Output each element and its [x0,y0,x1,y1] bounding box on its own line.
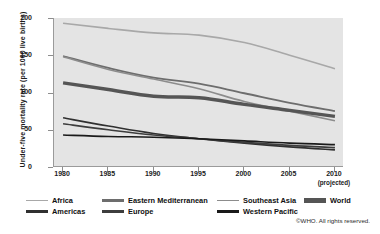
legend-label: Southeast Asia [243,196,296,205]
x-axis-tick-year: 1985 [100,170,116,177]
legend-item[interactable]: Europe [102,207,153,216]
plot-area [53,18,343,167]
legend-item[interactable]: Western Pacific [217,207,298,216]
y-axis-tick-label: 100 [4,88,32,95]
legend-item[interactable]: Americas [26,207,85,216]
legend-label: Western Pacific [243,207,298,216]
legend-item[interactable]: Eastern Mediterranean [102,196,208,205]
x-axis-tick-year: 1980 [54,170,70,177]
legend-swatch [102,199,124,201]
legend-swatch [26,200,48,202]
copyright-notice: ©WHO. All rights reserved. [0,217,370,224]
series-line [63,135,335,145]
legend-swatch [26,210,48,212]
legend-swatch [217,210,239,212]
series-line [63,23,335,68]
legend-label: Europe [128,207,153,216]
x-axis-tick-year: 2010 [326,170,342,177]
x-axis-tick-label: 2005 [266,170,312,179]
legend-label: World [330,196,351,205]
series-line [63,83,335,117]
x-axis-tick-label: 1980 [39,170,85,179]
y-axis-tick-label: 200 [4,14,32,21]
legend-label: Africa [52,196,73,205]
series-lines [54,18,344,167]
legend-row: AfricaEastern MediterraneanSoutheast Asi… [26,196,366,206]
x-axis-tick-label: 2010(projected) [311,170,357,187]
x-axis-tick-year: 1995 [190,170,206,177]
x-axis-tick-label: 1995 [175,170,221,179]
legend-swatch [217,200,239,202]
series-line [63,56,335,111]
legend-swatch [304,198,326,202]
legend-item[interactable]: Southeast Asia [217,196,296,205]
legend-item[interactable]: World [304,196,351,205]
x-axis-tick-label: 1990 [130,170,176,179]
x-axis-tick-year: 2000 [236,170,252,177]
x-axis-tick-label: 1985 [84,170,130,179]
legend-label: Americas [52,207,85,216]
legend-row: AmericasEuropeWestern Pacific [26,207,366,217]
x-axis-tick-label: 2000 [220,170,266,179]
x-axis-tick-year: 1990 [145,170,161,177]
legend-label: Eastern Mediterranean [128,196,208,205]
y-axis-tick-label: 50 [4,125,32,132]
chart-figure: Under-five mortality rate (per 1000 live… [0,0,380,234]
y-axis-tick-label: 0 [4,163,32,170]
legend-swatch [102,210,124,212]
y-axis-tick-mark [48,167,53,168]
y-axis-tick-label: 150 [4,51,32,58]
x-axis-tick-sublabel: (projected) [311,179,357,188]
legend-item[interactable]: Africa [26,196,73,205]
x-axis-tick-year: 2005 [281,170,297,177]
